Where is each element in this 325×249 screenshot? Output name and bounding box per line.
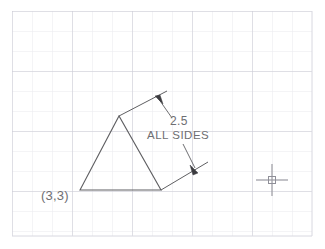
cad-drawing-window: 2.5 ALL SIDES (3,3) <box>0 0 325 249</box>
dimension-value-text: 2.5 <box>170 114 188 128</box>
base-point-coordinate-label: (3,3) <box>41 188 69 203</box>
dimension-note-text: ALL SIDES <box>147 129 209 141</box>
cad-drawing-canvas[interactable]: 2.5 ALL SIDES (3,3) <box>0 0 325 249</box>
